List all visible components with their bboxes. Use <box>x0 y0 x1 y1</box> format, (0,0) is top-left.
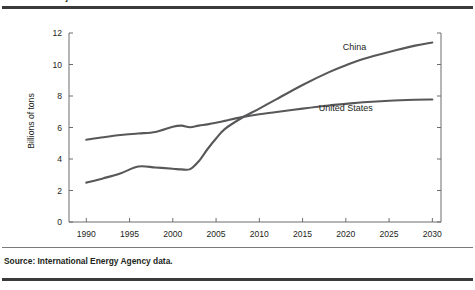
svg-text:12: 12 <box>52 28 62 38</box>
y-axis-title: Billions of tons <box>26 76 36 166</box>
svg-text:2030: 2030 <box>423 229 442 239</box>
source-divider-rule <box>2 247 473 248</box>
svg-text:8: 8 <box>57 91 62 101</box>
chart-plot-area: Billions of tons 02468101219901995200020… <box>0 12 475 244</box>
svg-text:2020: 2020 <box>336 229 355 239</box>
bottom-rule <box>2 278 473 281</box>
svg-text:2015: 2015 <box>293 229 312 239</box>
series-label-united-states: United States <box>319 103 374 113</box>
svg-text:2: 2 <box>57 186 62 196</box>
svg-text:10: 10 <box>52 60 62 70</box>
svg-text:2000: 2000 <box>163 229 182 239</box>
svg-text:2005: 2005 <box>207 229 226 239</box>
top-rule <box>2 6 473 9</box>
svg-text:2010: 2010 <box>250 229 269 239</box>
figure-container: FIGURE 1-1 Projected Oil and Carbon Emis… <box>0 0 475 290</box>
svg-text:1990: 1990 <box>77 229 96 239</box>
svg-text:4: 4 <box>57 154 62 164</box>
svg-text:0: 0 <box>57 217 62 227</box>
svg-text:1995: 1995 <box>120 229 139 239</box>
source-note: Source: International Energy Agency data… <box>4 256 173 266</box>
series-label-china: China <box>343 42 367 52</box>
line-chart: 0246810121990199520002005201020152020202… <box>0 12 475 244</box>
figure-title: FIGURE 1-1 Projected Oil and Carbon Emis… <box>4 0 470 3</box>
svg-text:2025: 2025 <box>380 229 399 239</box>
svg-text:6: 6 <box>57 123 62 133</box>
